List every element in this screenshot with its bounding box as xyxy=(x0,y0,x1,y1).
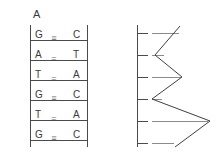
dna-backbone-right xyxy=(87,25,88,147)
base-letter-left: T xyxy=(35,70,41,80)
base-letter-right: C xyxy=(73,130,80,140)
base-letter-right: A xyxy=(73,70,80,80)
hydrogen-bond-symbol: ≡ xyxy=(50,94,58,103)
dna-backbone-left xyxy=(30,25,31,147)
hydrogen-bond-symbol: = xyxy=(50,74,58,83)
panel-a-dna-ladder: A GC≡AT=TA=GC≡TA=GC≡ xyxy=(0,0,112,161)
base-pair-rung xyxy=(30,60,88,61)
hydrogen-bond-symbol: ≡ xyxy=(50,134,58,143)
base-letter-left: A xyxy=(35,50,42,60)
base-pair-rung xyxy=(30,80,88,81)
base-letter-left: T xyxy=(35,110,41,120)
base-pair-rung xyxy=(30,140,88,141)
base-pair-rung xyxy=(30,100,88,101)
base-letter-left: G xyxy=(35,130,43,140)
base-letter-left: G xyxy=(35,30,43,40)
base-letter-left: G xyxy=(35,90,43,100)
base-pair-rung xyxy=(30,40,88,41)
base-letter-right: C xyxy=(73,30,80,40)
base-letter-right: T xyxy=(73,50,79,60)
trace-polyline xyxy=(152,26,210,147)
panel-b-trace-chart: B xyxy=(112,0,224,161)
base-pair-rung xyxy=(30,120,88,121)
panel-a-label: A xyxy=(33,9,41,20)
hydrogen-bond-symbol: = xyxy=(50,54,58,63)
hydrogen-bond-symbol: ≡ xyxy=(50,34,58,43)
hydrogen-bond-symbol: = xyxy=(50,114,58,123)
figure-container: A GC≡AT=TA=GC≡TA=GC≡ B xyxy=(0,0,224,161)
chart-trace-line xyxy=(112,0,224,161)
base-letter-right: C xyxy=(73,90,80,100)
base-letter-right: A xyxy=(73,110,80,120)
